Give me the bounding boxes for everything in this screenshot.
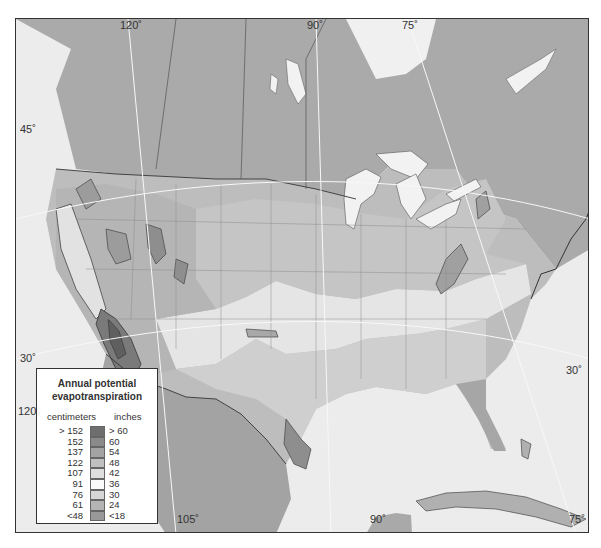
legend-swatch [90,500,105,511]
legend-swatch [90,511,105,522]
map-legend: Annual potential evapotranspiration cent… [36,368,158,524]
legend-row: 6124 [37,500,157,511]
lon-label-105-bottom: 105˚ [177,513,199,525]
lon-label-120-top: 120˚ [120,19,142,31]
lon-label-75-top: 75˚ [402,19,418,31]
legend-row: 10742 [37,468,157,479]
legend-swatch [90,437,105,448]
legend-cm-value: > 152 [59,426,83,437]
lat-label-30-right: 30˚ [566,364,582,376]
legend-swatch [90,479,105,490]
legend-row: 12248 [37,458,157,469]
legend-title-line2: evapotranspiration [37,390,157,403]
legend-swatch [90,447,105,458]
legend-in-value: <18 [109,511,125,522]
legend-cm-value: <48 [67,511,83,522]
legend-header-in: inches [114,411,141,422]
lat-label-30-left: 30˚ [20,352,36,364]
legend-swatch [90,458,105,469]
legend-swatch [90,490,105,501]
legend-title-line1: Annual potential [37,377,157,390]
legend-row: 9136 [37,479,157,490]
legend-in-value: > 60 [109,426,128,437]
legend-row: <48<18 [37,511,157,522]
lat-label-45-left: 45˚ [20,123,36,135]
legend-row: 13754 [37,447,157,458]
legend-swatch [90,426,105,437]
legend-row: 7630 [37,490,157,501]
legend-row: > 152> 60 [37,426,157,437]
legend-cm-value: 91 [72,479,83,490]
legend-title: Annual potential evapotranspiration [37,377,157,403]
lon-label-90-bottom: 90˚ [370,513,386,525]
legend-swatch [90,468,105,479]
lon-label-90-top: 90˚ [307,19,323,31]
legend-in-value: 36 [109,479,120,490]
legend-row: 15260 [37,437,157,448]
legend-rows: > 152> 60 15260 13754 12248 10742 9136 7… [37,426,157,521]
lon-label-75-bottom: 75˚ [569,513,585,525]
legend-header-cm: centimeters [47,411,96,422]
